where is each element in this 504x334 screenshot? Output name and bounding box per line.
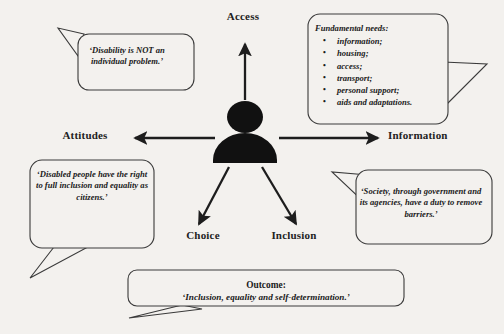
list-item-label: transport; <box>337 73 372 83</box>
person-icon <box>213 101 277 163</box>
list-item: •aids and adaptations. <box>315 96 475 108</box>
bullet-icon: • <box>323 60 326 72</box>
list-item: •housing; <box>315 47 475 59</box>
outcome-quote: ‘Inclusion, equality and self-determinat… <box>133 291 399 303</box>
arrow-inclusion <box>262 167 296 224</box>
bubble-bottom-right-text: ‘Society, through government and its age… <box>358 186 484 220</box>
bullet-icon: • <box>323 35 326 47</box>
arrow-choice <box>199 167 229 224</box>
spoke-label-inclusion: Inclusion <box>248 229 340 241</box>
bullet-icon: • <box>323 96 326 108</box>
spoke-label-attitudes: Attitudes <box>42 129 128 141</box>
list-item-label: aids and adaptations. <box>337 97 412 107</box>
list-item: •transport; <box>315 72 475 84</box>
bubble-top-right-content: Fundamental needs: •information; •housin… <box>315 22 475 108</box>
list-item: •access; <box>315 60 475 72</box>
list-item: •information; <box>315 35 475 47</box>
bullet-icon: • <box>323 72 326 84</box>
list-item-label: access; <box>337 61 362 71</box>
fundamental-needs-list: •information; •housing; •access; •transp… <box>315 35 475 108</box>
outcome-title: Outcome: <box>133 279 399 291</box>
bullet-icon: • <box>323 84 326 96</box>
list-item-label: personal support; <box>337 85 399 95</box>
outcome-content: Outcome: ‘Inclusion, equality and self-d… <box>133 279 399 303</box>
fundamental-needs-heading: Fundamental needs: <box>315 22 475 34</box>
spoke-label-access: Access <box>193 10 293 22</box>
bullet-icon: • <box>323 47 326 59</box>
spoke-label-choice: Choice <box>160 229 246 241</box>
list-item-label: information; <box>337 36 382 46</box>
bubble-top-left-text: ‘Disability is NOT an individual problem… <box>72 45 182 68</box>
spoke-label-information: Information <box>388 129 488 141</box>
list-item-label: housing; <box>337 48 369 58</box>
bubble-bottom-left-text: ‘Disabled people have the right to full … <box>36 169 148 203</box>
list-item: •personal support; <box>315 84 475 96</box>
diagram-canvas: Access Attitudes Information Choice Incl… <box>0 0 504 334</box>
